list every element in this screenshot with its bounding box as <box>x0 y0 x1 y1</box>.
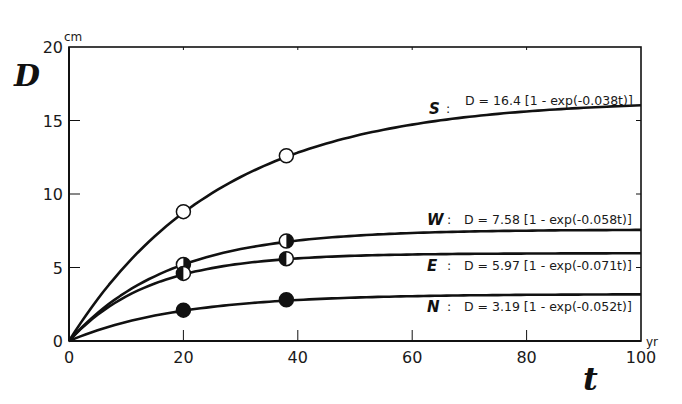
x-axis-unit: yr <box>646 335 658 349</box>
series-tag-e: E <box>427 257 438 275</box>
filled-circle-icon <box>279 293 293 307</box>
series-colon: : <box>447 258 451 273</box>
y-tick-label: 10 <box>43 185 63 204</box>
data-markers <box>176 149 293 317</box>
series-label-e: E : D = 5.97 [1 - exp(-0.071t)] <box>427 257 632 275</box>
x-tick-label: 40 <box>288 348 308 367</box>
series-tag-w: W <box>427 211 445 229</box>
series-label-w: W : D = 7.58 [1 - exp(-0.058t)] <box>427 211 632 229</box>
x-axis-label: t <box>583 360 598 398</box>
marker-w <box>279 234 293 248</box>
marker-n <box>279 293 293 307</box>
y-axis-label: D <box>13 58 40 93</box>
equation-n: D = 3.19 [1 - exp(-0.052t)] <box>464 299 632 314</box>
series-tag-n: N <box>427 298 440 316</box>
x-tick-label: 80 <box>516 348 536 367</box>
marker-e <box>279 252 293 266</box>
y-tick-label: 15 <box>43 112 63 131</box>
y-tick-label: 5 <box>53 259 63 278</box>
series-colon: : <box>447 299 451 314</box>
curve-w <box>69 230 641 341</box>
circle-icon <box>176 205 190 219</box>
marker-s <box>279 149 293 163</box>
equation-w: D = 7.58 [1 - exp(-0.058t)] <box>464 212 632 227</box>
y-tick-label: 0 <box>53 332 63 351</box>
y-axis-unit: cm <box>64 30 82 44</box>
x-tick-label: 60 <box>402 348 422 367</box>
marker-n <box>176 303 190 317</box>
marker-e <box>176 266 190 280</box>
marker-s <box>176 205 190 219</box>
series-label-n: N : D = 3.19 [1 - exp(-0.052t)] <box>427 298 632 316</box>
chart: 02040608010005101520 D cm t yr S : D = 1… <box>0 0 682 404</box>
y-tick-label: 20 <box>43 38 63 57</box>
x-tick-label: 100 <box>626 348 657 367</box>
axis-ticks: 02040608010005101520 <box>43 38 657 367</box>
equation-s: D = 16.4 [1 - exp(-0.038t)] <box>465 93 633 108</box>
x-tick-label: 20 <box>173 348 193 367</box>
series-label-s: S : D = 16.4 [1 - exp(-0.038t)] <box>429 93 633 118</box>
series-tag-s: S <box>429 100 440 118</box>
series-colon: : <box>447 212 451 227</box>
circle-icon <box>279 149 293 163</box>
series-colon: : <box>446 101 450 116</box>
filled-circle-icon <box>176 303 190 317</box>
equation-e: D = 5.97 [1 - exp(-0.071t)] <box>464 258 632 273</box>
x-tick-label: 0 <box>64 348 74 367</box>
